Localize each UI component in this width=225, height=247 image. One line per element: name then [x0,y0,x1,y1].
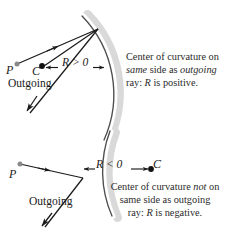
caption-top-same: same [126,64,147,75]
caption-bottom-line1a: Center of curvature [111,181,194,192]
caption-bottom-ray: ray: [128,207,147,218]
caption-top-line1: Center of curvature on [126,51,219,62]
point-label-p-bottom: P [9,167,16,181]
incoming-ray-bottom-arrowhead [38,168,50,171]
incoming-ray-bottom [20,164,83,178]
gray-dot-icon-p-bottom [18,162,23,167]
outgoing-ray-top-arrowhead [27,96,37,111]
outgoing-ray-top [30,29,98,113]
caption-top-ray: ray: [126,77,145,88]
caption-bottom-not: not [193,181,206,192]
radius-value-label-top: R > 0 [62,56,88,70]
caption-top: Center of curvature on same side as outg… [126,50,222,90]
point-label-c-bottom: C [153,157,161,171]
caption-top-positive: is positive. [151,77,198,88]
caption-top-outgoing: outgoing [180,64,217,75]
caption-bottom: Center of curvature not on same side as … [106,180,224,220]
optics-sign-convention-figure: P C R > 0 Outgoing Center of curvature o… [0,0,225,247]
outgoing-ray-label-bottom: Outgoing [29,195,72,209]
caption-bottom-line1b: on [206,181,219,192]
point-label-p-top: P [6,63,13,77]
outgoing-ray-label-top: Outgoing [8,77,51,91]
radius-value-label-bottom: R < 0 [96,158,122,172]
caption-top-sideas: side as [147,64,180,75]
caption-bottom-line2: same side as outgoing [120,194,211,205]
gray-dot-icon-p-top [15,62,20,67]
caption-bottom-negative: is negative. [153,207,202,218]
incoming-ray-top-arrowhead [47,46,58,51]
